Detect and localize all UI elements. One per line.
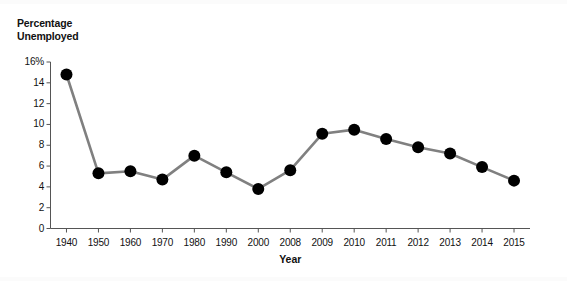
data-point-marker: [92, 167, 104, 179]
data-point-marker: [252, 183, 264, 195]
y-axis-tick-label: 16%: [6, 56, 44, 67]
data-point-marker: [284, 164, 296, 176]
data-point-marker: [220, 166, 232, 178]
y-axis-tick-label: 14: [6, 77, 44, 88]
y-axis-tick-label: 12: [6, 98, 44, 109]
data-point-markers: [60, 68, 520, 194]
data-point-marker: [188, 150, 200, 162]
y-axis-tick-marks: [47, 62, 51, 229]
data-point-marker: [124, 165, 136, 177]
data-point-marker: [156, 174, 168, 186]
y-axis-tick-label: 4: [6, 181, 44, 192]
data-point-marker: [380, 133, 392, 145]
y-axis-tick-label: 8: [6, 139, 44, 150]
data-point-marker: [60, 68, 72, 80]
data-point-marker: [316, 128, 328, 140]
data-point-marker: [476, 161, 488, 173]
data-point-marker: [444, 148, 456, 160]
data-point-marker: [348, 124, 360, 136]
x-axis-tick-marks: [66, 229, 514, 233]
unemployment-line-chart-figure: Percentage Unemployed 16%141210864201940…: [0, 0, 567, 281]
y-axis-tick-label: 0: [6, 223, 44, 234]
x-axis-tick-label: 2015: [494, 237, 534, 248]
data-point-marker: [508, 175, 520, 187]
data-point-marker: [412, 141, 424, 153]
y-axis-tick-label: 2: [6, 202, 44, 213]
y-axis-tick-label: 10: [6, 118, 44, 129]
y-axis-tick-label: 6: [6, 160, 44, 171]
x-axis-title: Year: [260, 253, 320, 265]
chart-axes: [51, 62, 531, 229]
